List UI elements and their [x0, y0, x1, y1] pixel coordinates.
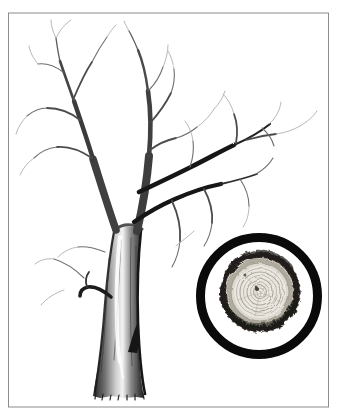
tree-illustration: [0, 0, 338, 416]
trunk-section: [221, 252, 300, 331]
knot-speck: [244, 274, 247, 277]
pith-dot: [255, 287, 259, 291]
illustration-canvas: [0, 0, 338, 416]
paper-background: [0, 0, 338, 416]
